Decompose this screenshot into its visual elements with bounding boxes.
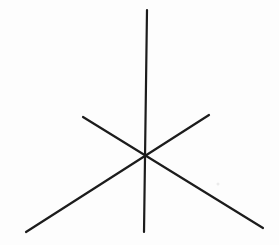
line-drawing-canvas	[0, 0, 279, 245]
vertical-axis-line	[144, 10, 147, 232]
three-axis-star-figure	[0, 0, 279, 245]
diagonal-line-lowerleft-to-upperright	[26, 115, 209, 232]
scan-speck	[217, 183, 220, 186]
diagonal-line-upperleft-to-lowerright	[83, 117, 263, 228]
